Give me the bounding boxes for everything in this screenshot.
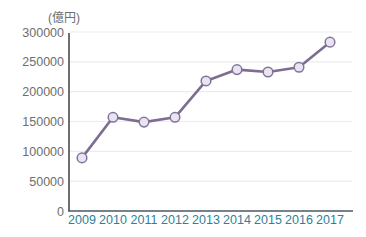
data-point xyxy=(325,37,335,47)
data-point xyxy=(294,62,304,72)
y-tick-label: 200000 xyxy=(22,85,64,99)
y-tick-label: 100000 xyxy=(22,145,64,159)
data-point xyxy=(232,65,242,75)
y-tick-label: 250000 xyxy=(22,55,64,69)
line-chart: (億円)050000100000150000200000250000300000… xyxy=(0,0,366,237)
data-point xyxy=(170,113,180,123)
x-tick-label: 2010 xyxy=(99,213,127,227)
x-tick-label: 2017 xyxy=(316,213,344,227)
data-point xyxy=(201,76,211,86)
x-tick-label: 2013 xyxy=(192,213,220,227)
y-tick-label: 300000 xyxy=(22,26,64,40)
y-tick-label: 150000 xyxy=(22,115,64,129)
y-tick-label: 0 xyxy=(57,205,64,219)
data-point xyxy=(263,67,273,77)
data-point xyxy=(77,153,87,163)
x-tick-label: 2009 xyxy=(68,213,96,227)
chart-screenshot: (億円)050000100000150000200000250000300000… xyxy=(0,0,366,237)
x-tick-label: 2012 xyxy=(161,213,189,227)
x-tick-label: 2014 xyxy=(223,213,251,227)
x-tick-label: 2015 xyxy=(254,213,282,227)
data-point xyxy=(139,117,149,127)
x-tick-label: 2011 xyxy=(131,213,158,227)
y-axis-unit-label: (億円) xyxy=(48,11,80,25)
chart-svg: (億円)050000100000150000200000250000300000… xyxy=(0,0,366,237)
y-tick-label: 50000 xyxy=(29,175,64,189)
data-point xyxy=(108,113,118,123)
data-line xyxy=(82,42,330,158)
x-tick-label: 2016 xyxy=(285,213,313,227)
